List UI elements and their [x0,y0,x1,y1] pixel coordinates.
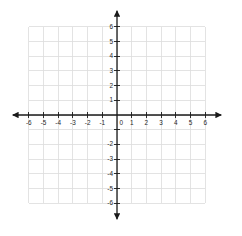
axes [0,0,242,236]
axis-lines [13,11,221,219]
coordinate-plane: -6-5-4-3-2-1123456-6-5-4-3-21234560 [0,0,242,236]
